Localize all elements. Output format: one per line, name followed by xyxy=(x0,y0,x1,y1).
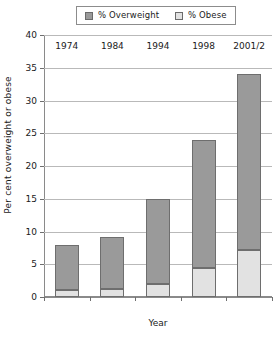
bar-segment-overweight xyxy=(146,199,170,284)
chart-container: % Overweight % Obese Per cent overweight… xyxy=(0,0,279,337)
bar-stack xyxy=(192,35,216,297)
bar-segment-obese xyxy=(146,284,170,297)
y-tick-label: 35 xyxy=(26,63,37,73)
x-tick-mark xyxy=(44,297,45,301)
y-tick-mark xyxy=(40,68,44,69)
y-tick-label: 25 xyxy=(26,128,37,138)
y-tick-label: 30 xyxy=(26,96,37,106)
bar-segment-overweight xyxy=(237,74,261,250)
x-axis-title: Year xyxy=(44,318,272,328)
x-tick-label: 1998 xyxy=(192,41,215,51)
legend-swatch-overweight-icon xyxy=(85,12,93,20)
x-tick-label: 2001/2 xyxy=(233,41,265,51)
y-tick-label: 40 xyxy=(26,30,37,40)
y-tick-label: 5 xyxy=(31,259,37,269)
y-tick-mark xyxy=(40,199,44,200)
legend-label-overweight: % Overweight xyxy=(98,11,159,20)
legend-item-obese: % Obese xyxy=(175,11,226,20)
x-tick-mark xyxy=(90,297,91,301)
y-tick-mark xyxy=(40,232,44,233)
x-tick-mark xyxy=(226,297,227,301)
bar-stack xyxy=(146,35,170,297)
y-tick-label: 15 xyxy=(26,194,37,204)
legend-swatch-obese-icon xyxy=(175,12,183,20)
x-tick-mark xyxy=(272,297,273,301)
y-axis-title: Per cent overweight or obese xyxy=(2,0,14,290)
legend-label-obese: % Obese xyxy=(188,11,226,20)
gridline xyxy=(44,297,272,298)
bar-segment-overweight xyxy=(55,245,79,291)
bar-segment-obese xyxy=(55,290,79,297)
x-tick-mark xyxy=(181,297,182,301)
bar-segment-overweight xyxy=(100,237,124,289)
bar-segment-obese xyxy=(192,268,216,297)
bar-stack xyxy=(100,35,124,297)
y-tick-label: 10 xyxy=(26,227,37,237)
x-tick-mark xyxy=(135,297,136,301)
legend-item-overweight: % Overweight xyxy=(85,11,159,20)
plot-area: 0510152025303540 19741984199419982001/2 xyxy=(44,35,272,297)
bar-segment-obese xyxy=(237,250,261,297)
y-tick-mark xyxy=(40,133,44,134)
x-tick-label: 1994 xyxy=(147,41,170,51)
x-tick-label: 1984 xyxy=(101,41,124,51)
y-tick-mark xyxy=(40,101,44,102)
y-axis-title-text: Per cent overweight or obese xyxy=(3,76,13,214)
bar-segment-obese xyxy=(100,289,124,297)
x-tick-label: 1974 xyxy=(55,41,78,51)
chart-legend: % Overweight % Obese xyxy=(76,6,236,25)
y-tick-label: 0 xyxy=(31,292,37,302)
bar-segment-overweight xyxy=(192,140,216,268)
y-tick-mark xyxy=(40,166,44,167)
bar-stack xyxy=(55,35,79,297)
y-tick-mark xyxy=(40,264,44,265)
bar-stack xyxy=(237,35,261,297)
y-tick-label: 20 xyxy=(26,161,37,171)
y-tick-mark xyxy=(40,35,44,36)
